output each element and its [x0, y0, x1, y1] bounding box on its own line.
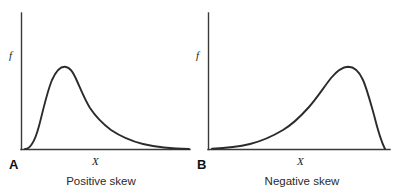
panel-b-letter: B: [197, 157, 206, 172]
panel-a-x-axis-label: X: [91, 155, 100, 167]
panel-b-caption: Negative skew: [265, 175, 340, 187]
figure-canvas: f X A Positive skew f X B Negative skew: [0, 0, 403, 191]
panel-a-caption: Positive skew: [66, 175, 136, 187]
skewness-figure: f X A Positive skew f X B Negative skew: [0, 0, 403, 191]
panel-a-positive-skew: f X A Positive skew: [9, 13, 190, 187]
panel-b-y-axis-label: f: [196, 49, 201, 61]
panel-a-letter: A: [9, 157, 19, 172]
panel-a-distribution-curve: [25, 67, 189, 149]
panel-b-distribution-curve: [212, 67, 385, 149]
panel-a-y-axis-label: f: [9, 49, 14, 61]
panel-b-x-axis-label: X: [296, 155, 305, 167]
panel-b-negative-skew: f X B Negative skew: [196, 13, 390, 187]
